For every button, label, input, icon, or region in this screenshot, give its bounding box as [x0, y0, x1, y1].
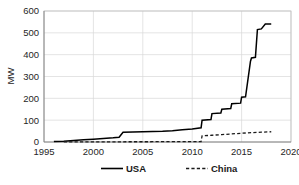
y-tick-label: 500: [23, 27, 39, 38]
x-tick-label: 2005: [132, 146, 153, 157]
chart-background: [0, 0, 299, 185]
x-tick-label: 2015: [231, 146, 252, 157]
y-tick-label: 200: [23, 93, 39, 104]
y-tick-label: 100: [23, 115, 39, 126]
y-tick-label: 300: [23, 71, 39, 82]
y-tick-label: 400: [23, 49, 39, 60]
line-chart: 0100200300400500600 19952000200520102015…: [0, 0, 299, 185]
chart-container: 0100200300400500600 19952000200520102015…: [0, 0, 299, 185]
x-tick-label: 2000: [83, 146, 104, 157]
y-tick-label: 600: [23, 5, 39, 16]
y-axis-label: MW: [5, 68, 16, 85]
x-tick-label: 1995: [33, 146, 54, 157]
legend-label-china[interactable]: China: [211, 163, 238, 174]
legend-label-usa[interactable]: USA: [126, 163, 146, 174]
x-tick-label: 2020: [280, 146, 299, 157]
x-tick-label: 2010: [182, 146, 203, 157]
